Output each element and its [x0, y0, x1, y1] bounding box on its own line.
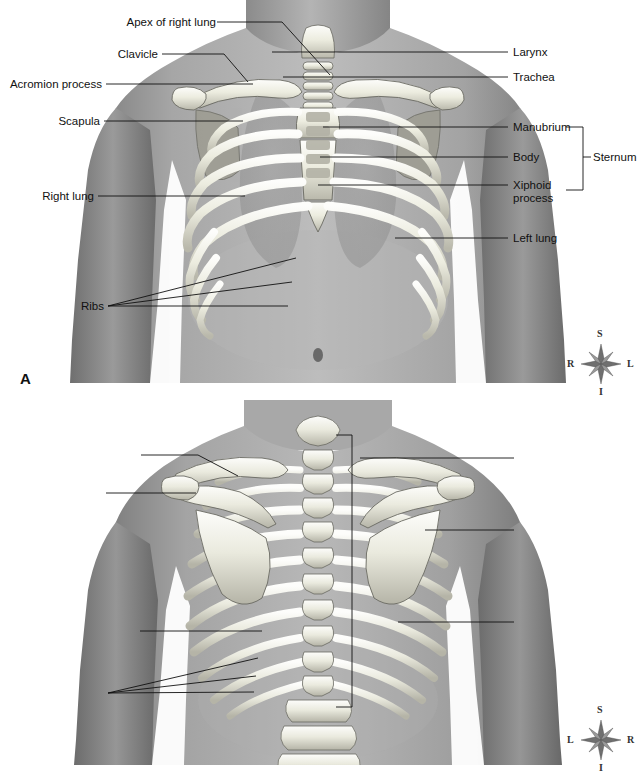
- compass-rose-a: S R L I: [565, 328, 637, 400]
- larynx-shape: [302, 25, 335, 58]
- navel: [313, 348, 323, 362]
- anatomy-figure: Apex of right lung Clavicle Acromion pro…: [0, 0, 637, 777]
- label-scapula-a: Scapula: [0, 115, 100, 128]
- panel-a-anterior: Apex of right lung Clavicle Acromion pro…: [0, 0, 637, 400]
- compass-rose-b: S L R I: [565, 704, 637, 776]
- right-arm-photo-b: [478, 522, 562, 765]
- label-ribs-a: Ribs: [0, 300, 104, 313]
- trachea-larynx: [302, 25, 335, 110]
- compass-left-b: L: [567, 734, 574, 745]
- left-arm-photo: [480, 108, 566, 383]
- label-sternum-body: Body: [513, 151, 539, 164]
- trachea-rings: [303, 62, 333, 110]
- compass-up-a: S: [597, 328, 603, 339]
- panel-b-artwork: [0, 400, 637, 777]
- sternum-bracket-shape: [566, 127, 591, 190]
- panel-b-posterior: Clavicle Acromion process Left lung Ribs…: [0, 400, 637, 777]
- right-arm-photo: [70, 108, 156, 383]
- label-trachea: Trachea: [513, 71, 555, 84]
- label-left-lung-a: Left lung: [513, 232, 557, 245]
- label-larynx: Larynx: [513, 46, 548, 59]
- label-manubrium: Manubrium: [513, 121, 571, 134]
- compass-down-a: I: [599, 386, 603, 397]
- compass-down-b: I: [599, 762, 603, 773]
- panel-letter-a: A: [20, 370, 31, 387]
- label-sternum: Sternum: [593, 151, 636, 164]
- right-acromion-b: [437, 476, 474, 500]
- compass-right-b: R: [627, 734, 634, 745]
- label-apex-of-right-lung: Apex of right lung: [0, 16, 216, 29]
- lumbar-vertebrae: [278, 700, 360, 776]
- compass-left-a: R: [567, 358, 574, 369]
- label-clavicle-a: Clavicle: [0, 48, 158, 61]
- compass-up-b: S: [597, 704, 603, 715]
- vertebral-column-anterior: [306, 112, 330, 178]
- left-acromion-b: [162, 476, 199, 500]
- compass-right-a: L: [627, 358, 634, 369]
- label-xiphoid-process: Xiphoid process: [513, 179, 553, 204]
- left-arm-photo-b: [74, 522, 158, 765]
- label-right-lung-a: Right lung: [0, 190, 94, 203]
- label-acromion-process-a: Acromion process: [0, 78, 102, 91]
